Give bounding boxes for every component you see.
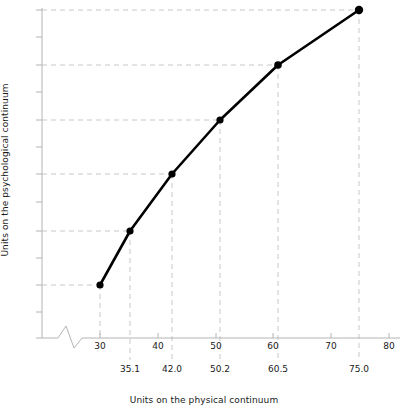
x-point-label-75-0: 75.0 [349,364,369,374]
horizontal-gridlines [42,10,359,285]
x-tick-label-50: 50 [210,341,221,351]
data-point [274,61,282,69]
x-axis-title: Units on the physical continuum [0,395,408,405]
x-tick-label-80: 80 [383,341,394,351]
x-point-label-50-2: 50.2 [210,364,230,374]
plot-area [0,0,408,413]
x-tick-label-70: 70 [325,341,336,351]
axis-break-zigzag-icon [58,326,82,348]
data-line-psychophysical-scale [100,10,359,285]
y-axis-title: Units on the psychological continuum [0,0,10,340]
chart-figure: 30 40 50 60 70 80 35.1 42.0 50.2 60.5 75… [0,0,408,413]
x-tick-label-40: 40 [152,341,163,351]
x-tick-label-30: 30 [94,341,105,351]
data-point [355,6,363,14]
vertical-droplines [100,10,359,360]
data-point [96,281,103,288]
x-point-label-60-5: 60.5 [268,364,288,374]
x-point-label-35-1: 35.1 [120,364,140,374]
x-tick-label-60: 60 [267,341,278,351]
data-point [168,170,175,177]
data-point [216,116,223,123]
y-axis-ticks [36,10,42,338]
data-markers [96,6,363,289]
data-point [126,227,133,234]
x-point-label-42-0: 42.0 [162,364,182,374]
x-axis-ticks [100,333,389,338]
